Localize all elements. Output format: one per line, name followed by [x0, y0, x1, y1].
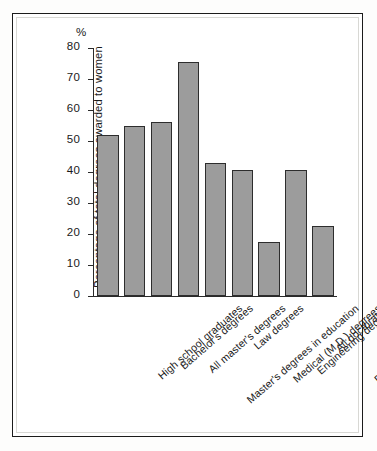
- y-tick-0: 0: [88, 296, 94, 297]
- y-tick-20: 20: [88, 234, 94, 235]
- bar: [151, 122, 173, 296]
- bar: [124, 126, 146, 297]
- y-tick-10: 10: [88, 265, 94, 266]
- y-tick-label-60: 60: [67, 102, 80, 114]
- bar: [258, 242, 280, 296]
- bar: [285, 170, 307, 296]
- y-tick-label-30: 30: [67, 195, 80, 207]
- y-tick-label-70: 70: [67, 71, 80, 83]
- y-tick-60: 60: [88, 110, 94, 111]
- x-axis-labels: High school graduatesBachelor's degreesA…: [93, 298, 353, 448]
- y-tick-label-50: 50: [67, 133, 80, 145]
- y-tick-50: 50: [88, 141, 94, 142]
- y-tick-label-20: 20: [67, 226, 80, 238]
- y-tick-label-80: 80: [67, 40, 80, 52]
- y-tick-label-40: 40: [67, 164, 80, 176]
- y-tick-label-0: 0: [73, 288, 80, 300]
- chart-figure: % Percentage of total degrees awarded to…: [0, 0, 377, 451]
- bar: [205, 163, 227, 296]
- y-tick-label-10: 10: [67, 257, 80, 269]
- y-axis-unit-symbol: %: [76, 26, 86, 38]
- y-tick-70: 70: [88, 79, 94, 80]
- bar: [232, 170, 254, 296]
- plot-area: Percentage of total degrees awarded to w…: [93, 40, 337, 296]
- y-tick-80: 80: [88, 48, 94, 49]
- bar: [97, 135, 119, 296]
- bar: [312, 226, 334, 296]
- y-tick-40: 40: [88, 172, 94, 173]
- y-tick-30: 30: [88, 203, 94, 204]
- bar: [178, 62, 200, 296]
- bar-series: [94, 40, 336, 296]
